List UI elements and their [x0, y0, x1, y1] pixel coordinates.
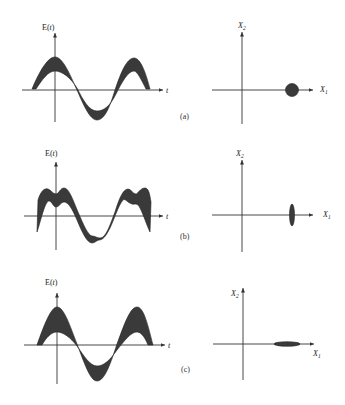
panel-label-c: (c) [181, 365, 190, 374]
e-axis-label: E(t) [45, 149, 58, 158]
noise-band [32, 57, 150, 120]
t-axis-label: t [166, 86, 169, 95]
noise-band [37, 188, 151, 243]
noise-band [37, 307, 153, 381]
x2-axis-label: X2 [230, 289, 239, 299]
phasor-b: X2 X1 [212, 149, 331, 252]
waveform-a: E(t) t [22, 23, 169, 122]
x1-axis-label: X1 [312, 349, 321, 359]
t-axis-label: t [166, 212, 169, 221]
waveform-c: E(t) t [24, 278, 171, 384]
panel-a-waveform: E(t) t X2 X1 E(t) t X2 X1 E(t) t X2 [0, 0, 345, 405]
x1-axis-label: X1 [322, 210, 331, 220]
e-axis-label: E(t) [42, 23, 55, 32]
waveform-b: E(t) t [24, 149, 169, 250]
x2-axis-label: X2 [235, 149, 244, 159]
t-axis-label: t [168, 341, 171, 350]
x1-axis-label: X1 [319, 85, 328, 95]
x2-axis-label: X2 [237, 21, 246, 31]
e-axis-label: E(t) [45, 278, 58, 287]
panel-label-b: (b) [180, 232, 189, 241]
noise-ellipse-horizontal [274, 342, 300, 347]
phasor-c: X2 X1 [213, 288, 321, 380]
panel-label-a: (a) [180, 112, 189, 121]
phasor-a: X2 X1 [212, 21, 328, 124]
noise-ellipse-vertical [290, 204, 295, 226]
noise-circle [286, 84, 299, 97]
